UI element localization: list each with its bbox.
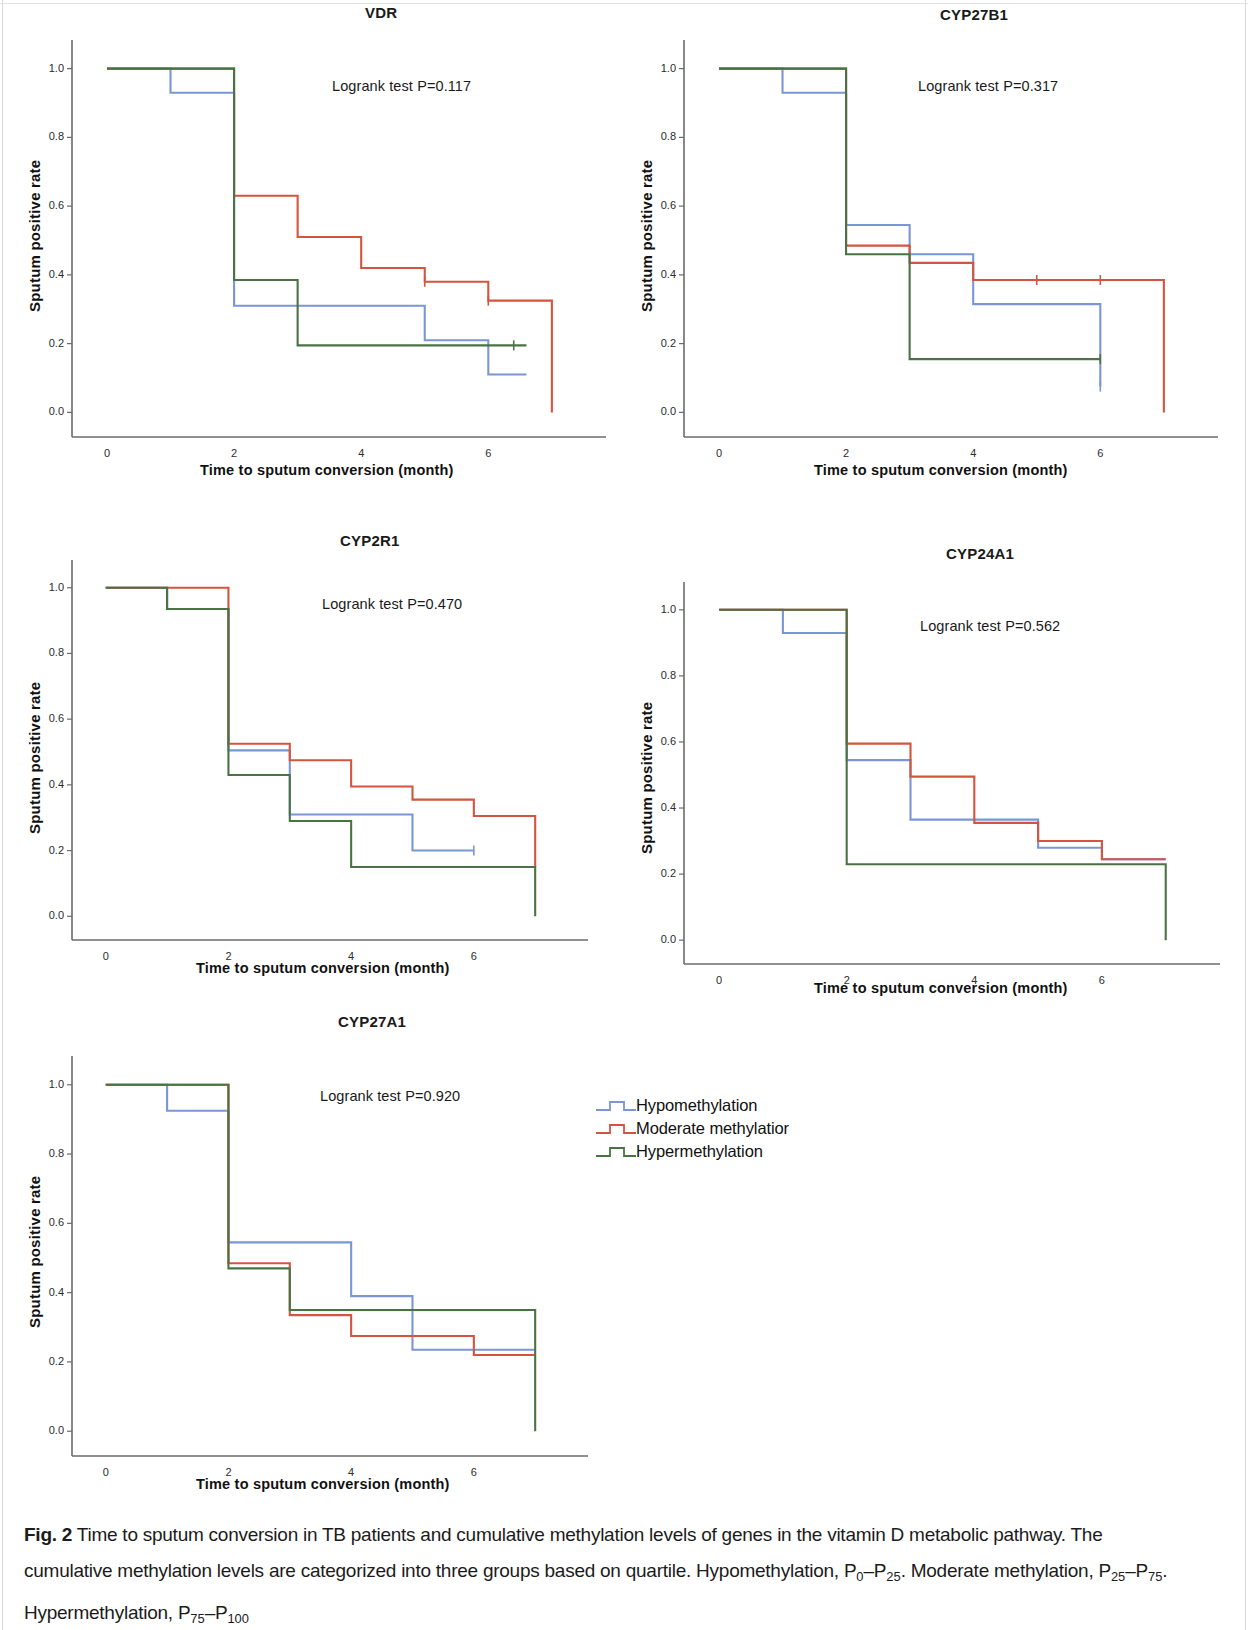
km-step-curve-moderate-methylation <box>106 1085 535 1355</box>
legend-item-moderate: Moderate methylatior <box>594 1117 789 1140</box>
plot-area <box>0 532 624 1032</box>
chart-panel-cyp27b1: CYP27B1Logrank test P=0.317Sputum positi… <box>624 0 1248 500</box>
plot-area <box>0 0 624 500</box>
legend-label-moderate: Moderate methylatior <box>636 1119 789 1138</box>
figure-panels-area: VDRLogrank test P=0.117Sputum positive r… <box>0 0 1248 1498</box>
km-step-curve-hypermethylation <box>107 69 526 346</box>
caption-text-1: Time to sputum conversion in TB patients… <box>77 1524 1103 1545</box>
legend-item-hyper: Hypermethylation <box>594 1140 789 1163</box>
chart-panel-vdr: VDRLogrank test P=0.117Sputum positive r… <box>0 0 624 500</box>
legend-label-hypo: Hypomethylation <box>636 1096 757 1115</box>
km-step-curve-hypomethylation <box>107 69 526 375</box>
plot-area <box>624 542 1248 1042</box>
plot-area <box>624 0 1248 500</box>
legend-swatch-moderate <box>594 1119 638 1139</box>
chart-panel-cyp24a1: CYP24A1Logrank test P=0.562Sputum positi… <box>624 542 1248 1042</box>
km-step-curve-moderate-methylation <box>719 610 1166 859</box>
figure-caption: Fig. 2 Time to sputum conversion in TB p… <box>24 1517 1214 1630</box>
km-step-curve-moderate-methylation <box>719 69 1164 413</box>
km-step-curve-hypermethylation <box>106 1085 535 1431</box>
legend-label-hyper: Hypermethylation <box>636 1142 763 1161</box>
legend-swatch-hypo <box>594 1096 638 1116</box>
km-step-curve-hypomethylation <box>719 610 1166 859</box>
caption-line-1: Fig. 2 Time to sputum conversion in TB p… <box>24 1517 1214 1553</box>
chart-panel-cyp2r1: CYP2R1Logrank test P=0.470Sputum positiv… <box>0 532 624 1032</box>
km-step-curve-hypermethylation <box>106 588 535 917</box>
km-step-curve-hypermethylation <box>719 610 1166 940</box>
figure-label: Fig. 2 <box>24 1524 72 1545</box>
legend-step-glyph <box>596 1102 636 1110</box>
legend-swatch-hyper <box>594 1142 638 1162</box>
km-step-curve-hypermethylation <box>719 69 1100 359</box>
legend-step-glyph <box>596 1148 636 1156</box>
km-step-curve-moderate-methylation <box>106 588 535 867</box>
legend-step-glyph <box>596 1125 636 1133</box>
legend-item-hypo: Hypomethylation <box>594 1094 789 1117</box>
plot-area <box>0 1006 624 1506</box>
caption-line-3: Hypermethylation, P75–P100 <box>24 1595 1214 1630</box>
caption-line-2: cumulative methylation levels are catego… <box>24 1553 1214 1595</box>
km-step-curve-moderate-methylation <box>107 69 552 413</box>
legend: HypomethylationModerate methylatiorHyper… <box>594 1094 789 1163</box>
chart-panel-cyp27a1: CYP27A1Logrank test P=0.920Sputum positi… <box>0 1006 624 1506</box>
